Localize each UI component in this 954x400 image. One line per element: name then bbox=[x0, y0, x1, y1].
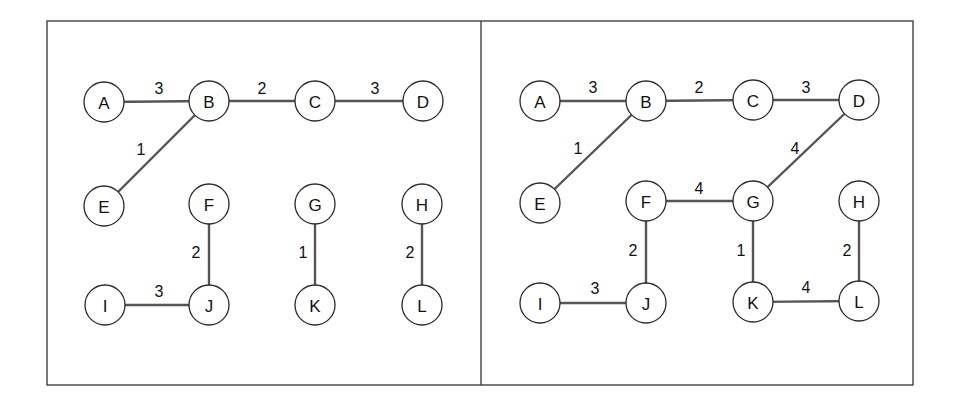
edge-weight-label: 3 bbox=[802, 79, 811, 96]
edge-weight-label: 2 bbox=[192, 244, 201, 261]
node-h: H bbox=[402, 184, 442, 224]
node-e: E bbox=[520, 183, 560, 223]
node-label: F bbox=[641, 193, 651, 212]
edge-weight-label: 1 bbox=[299, 244, 308, 261]
node-k: K bbox=[295, 285, 335, 325]
edge-weight-label: 3 bbox=[155, 80, 164, 97]
node-h: H bbox=[839, 181, 879, 221]
node-j: J bbox=[189, 285, 229, 325]
node-k: K bbox=[733, 282, 773, 322]
edge-b-e bbox=[540, 101, 646, 203]
edge-weight-label: 2 bbox=[843, 242, 852, 259]
node-label: B bbox=[640, 93, 651, 112]
node-d: D bbox=[839, 80, 879, 120]
node-label: I bbox=[538, 295, 543, 314]
node-f: F bbox=[189, 184, 229, 224]
edge-b-e bbox=[104, 101, 209, 206]
node-label: D bbox=[853, 92, 865, 111]
edge-weight-label: 2 bbox=[406, 244, 415, 261]
node-label: A bbox=[534, 93, 546, 112]
node-label: D bbox=[417, 93, 429, 112]
node-i: I bbox=[520, 283, 560, 323]
node-e: E bbox=[84, 186, 124, 226]
edge-weight-label: 2 bbox=[258, 80, 267, 97]
node-f: F bbox=[626, 181, 666, 221]
outer-frame bbox=[47, 21, 913, 385]
right-panel-graph: 32314421234 ABCDEFGHIJKL bbox=[520, 79, 879, 324]
node-label: I bbox=[103, 297, 108, 316]
edge-weight-label: 1 bbox=[574, 140, 583, 157]
edge-weight-label: 2 bbox=[629, 242, 638, 259]
node-label: J bbox=[205, 297, 214, 316]
edge-weight-label: 2 bbox=[695, 79, 704, 96]
node-g: G bbox=[733, 181, 773, 221]
node-label: G bbox=[308, 196, 321, 215]
node-b: B bbox=[626, 81, 666, 121]
node-label: L bbox=[854, 293, 863, 312]
edge-weight-label: 4 bbox=[695, 180, 704, 197]
edge-weight-label: 4 bbox=[791, 140, 800, 157]
node-c: C bbox=[295, 81, 335, 121]
node-label: E bbox=[98, 198, 109, 217]
node-label: C bbox=[747, 92, 759, 111]
node-label: C bbox=[309, 93, 321, 112]
node-c: C bbox=[733, 80, 773, 120]
node-label: B bbox=[203, 93, 214, 112]
edge-weight-label: 1 bbox=[737, 242, 746, 259]
left-panel-graph: 32312123 ABCDEFGHIJKL bbox=[84, 80, 443, 326]
node-label: K bbox=[309, 297, 321, 316]
node-label: J bbox=[642, 295, 651, 314]
edge-weight-label: 4 bbox=[802, 279, 811, 296]
node-l: L bbox=[402, 285, 442, 325]
nodes-layer: ABCDEFGHIJKL bbox=[84, 81, 443, 325]
node-d: D bbox=[403, 81, 443, 121]
node-label: H bbox=[853, 193, 865, 212]
node-b: B bbox=[189, 81, 229, 121]
node-a: A bbox=[520, 81, 560, 121]
node-label: F bbox=[204, 196, 214, 215]
node-i: I bbox=[85, 285, 125, 325]
node-label: G bbox=[746, 193, 759, 212]
edge-weight-label: 1 bbox=[137, 141, 146, 158]
node-label: A bbox=[98, 94, 110, 113]
edges-layer: 32312123 bbox=[104, 80, 423, 306]
node-label: K bbox=[747, 294, 759, 313]
edge-weight-label: 3 bbox=[591, 280, 600, 297]
edge-d-g bbox=[753, 100, 859, 201]
graph-figure: 32312123 ABCDEFGHIJKL 32314421234 ABCDEF… bbox=[0, 0, 954, 400]
edges-layer: 32314421234 bbox=[540, 79, 859, 304]
node-label: E bbox=[534, 195, 545, 214]
node-g: G bbox=[295, 184, 335, 224]
node-a: A bbox=[84, 82, 124, 122]
edge-weight-label: 3 bbox=[155, 283, 164, 300]
node-j: J bbox=[626, 283, 666, 323]
node-label: H bbox=[416, 196, 428, 215]
edge-weight-label: 3 bbox=[371, 80, 380, 97]
node-label: L bbox=[417, 297, 426, 316]
node-l: L bbox=[839, 281, 879, 321]
edge-weight-label: 3 bbox=[589, 79, 598, 96]
